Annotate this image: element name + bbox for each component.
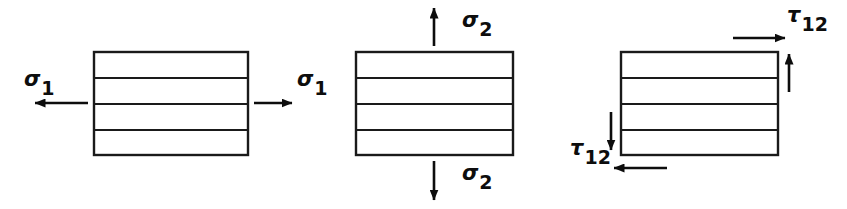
tau-12-bottom-left-label: τ12 (570, 136, 611, 168)
sigma-1-right-subscript: 1 (314, 77, 327, 99)
stress-state-figure: σ1 σ1 σ2 σ2 (0, 0, 847, 209)
sigma-1-right-label: σ1 (297, 67, 328, 99)
sigma-1-right-symbol: σ (297, 67, 314, 91)
figure-canvas: σ1 σ1 σ2 σ2 (0, 0, 847, 209)
element-in-plane-shear: τ12 τ12 (570, 3, 828, 168)
sigma-2-bottom-subscript: 2 (479, 171, 492, 193)
sigma-2-top-subscript: 2 (479, 18, 492, 40)
tau-12-top-right-symbol: τ (787, 3, 801, 27)
sigma-2-top-label: σ2 (462, 8, 493, 40)
element-longitudinal-tension: σ1 σ1 (24, 52, 328, 155)
sigma-2-top-symbol: σ (462, 8, 479, 32)
tau-12-bottom-left-subscript: 12 (584, 146, 610, 168)
element-transverse-tension: σ2 σ2 (356, 8, 513, 200)
tau-12-top-right-label: τ12 (787, 3, 828, 35)
sigma-1-left-symbol: σ (24, 67, 41, 91)
sigma-2-bottom-label: σ2 (462, 161, 493, 193)
sigma-2-bottom-symbol: σ (462, 161, 479, 185)
sigma-1-left-subscript: 1 (41, 77, 54, 99)
tau-12-bottom-left-symbol: τ (570, 136, 584, 160)
tau-12-top-right-subscript: 12 (801, 13, 827, 35)
sigma-1-left-label: σ1 (24, 67, 55, 99)
